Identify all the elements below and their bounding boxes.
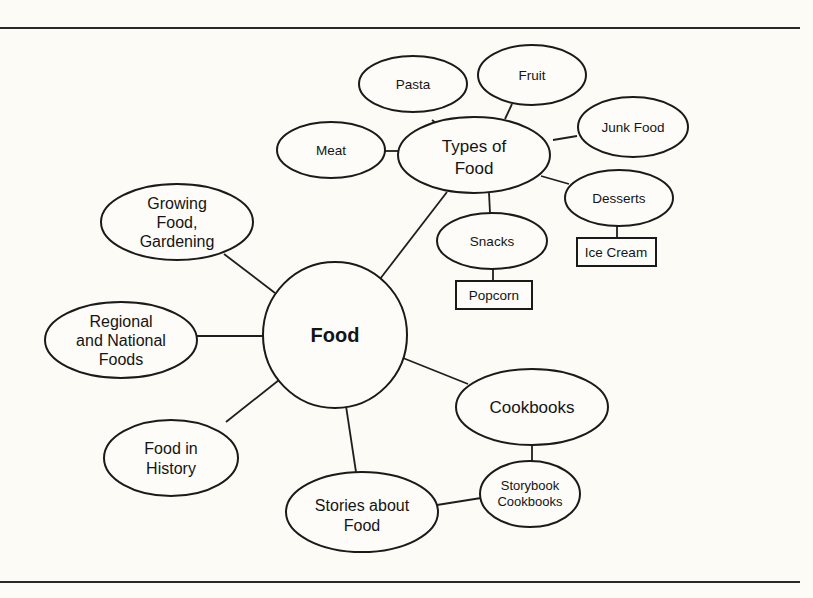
concept-web-diagram: Pasta Fruit Junk Food Meat Types of Food…: [0, 0, 813, 598]
label-regional-line1: Regional: [89, 313, 152, 330]
label-cookbooks: Cookbooks: [489, 398, 574, 417]
node-desserts: Desserts: [565, 170, 673, 226]
node-junk-food: Junk Food: [578, 97, 688, 157]
edge-types-junk: [553, 136, 577, 140]
label-history-line1: Food in: [144, 440, 197, 457]
edge-food-growing: [224, 254, 275, 293]
edge-food-history: [226, 380, 279, 422]
node-regional: Regional and National Foods: [45, 302, 197, 378]
node-stories-about-food: Stories about Food: [286, 472, 438, 552]
label-meat: Meat: [316, 143, 346, 158]
label-storybook-line1: Storybook: [501, 478, 560, 493]
label-popcorn: Popcorn: [469, 288, 519, 303]
label-growing-line3: Gardening: [140, 233, 215, 250]
label-ice-cream: Ice Cream: [585, 245, 647, 260]
label-stories-line1: Stories about: [315, 497, 410, 514]
node-storybook-cookbooks: Storybook Cookbooks: [480, 461, 580, 527]
node-meat: Meat: [277, 122, 385, 178]
label-regional-line3: Foods: [99, 351, 143, 368]
label-fruit: Fruit: [519, 68, 546, 83]
node-food-central: Food: [263, 262, 407, 408]
node-cookbooks: Cookbooks: [456, 369, 608, 445]
node-pasta: Pasta: [359, 56, 467, 112]
label-desserts: Desserts: [592, 191, 646, 206]
node-snacks: Snacks: [437, 213, 547, 269]
label-types-of-food-line1: Types of: [442, 137, 507, 156]
edge-types-snacks: [489, 193, 490, 213]
edge-types-desserts: [541, 176, 569, 184]
label-regional-line2: and National: [76, 332, 166, 349]
node-food-in-history: Food in History: [104, 420, 238, 496]
node-growing-food: Growing Food, Gardening: [101, 184, 253, 260]
node-ice-cream: Ice Cream: [577, 238, 656, 266]
label-pasta: Pasta: [396, 77, 431, 92]
label-growing-line1: Growing: [147, 195, 207, 212]
node-popcorn: Popcorn: [456, 281, 532, 309]
edge-stories-storybook: [437, 498, 481, 505]
edge-food-cookbooks: [403, 358, 468, 384]
node-types-of-food: Types of Food: [398, 117, 550, 193]
label-storybook-line2: Cookbooks: [497, 494, 563, 509]
node-fruit: Fruit: [478, 45, 586, 105]
ellipse-food-in-history: [104, 420, 238, 496]
edge-food-stories: [346, 406, 356, 472]
label-stories-line2: Food: [344, 517, 380, 534]
label-snacks: Snacks: [470, 234, 515, 249]
label-growing-line2: Food,: [157, 214, 198, 231]
label-junk-food: Junk Food: [601, 120, 664, 135]
label-food-central: Food: [311, 324, 360, 346]
edge-types-fruit: [505, 104, 512, 119]
label-types-of-food-line2: Food: [455, 159, 494, 178]
label-history-line2: History: [146, 460, 196, 477]
